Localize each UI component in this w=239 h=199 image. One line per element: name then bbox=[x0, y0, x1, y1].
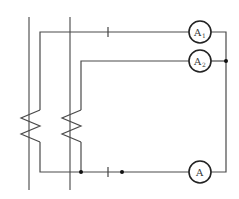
ammeter-a2: A 2 bbox=[189, 50, 211, 72]
junction-dot bbox=[79, 170, 83, 174]
meter-label: A bbox=[193, 56, 202, 67]
outer-top-right bbox=[211, 32, 226, 172]
inner-loop-leg-top bbox=[81, 61, 189, 110]
circuit-diagram: A 1 A 2 A bbox=[0, 0, 239, 199]
meter-label: A bbox=[195, 167, 204, 178]
ammeter-a: A bbox=[189, 161, 211, 183]
junction-dot bbox=[224, 59, 228, 63]
ammeter-a1: A 1 bbox=[189, 21, 211, 43]
outer-loop-left-leg-top bbox=[40, 32, 189, 110]
meter-label: A bbox=[193, 27, 202, 38]
meter-subscript: 2 bbox=[202, 61, 206, 68]
junction-dot bbox=[120, 170, 124, 174]
outer-loop-left-leg-bottom bbox=[40, 142, 81, 172]
coil-left bbox=[21, 110, 40, 142]
coil-right bbox=[62, 110, 81, 142]
meter-subscript: 1 bbox=[202, 32, 206, 39]
